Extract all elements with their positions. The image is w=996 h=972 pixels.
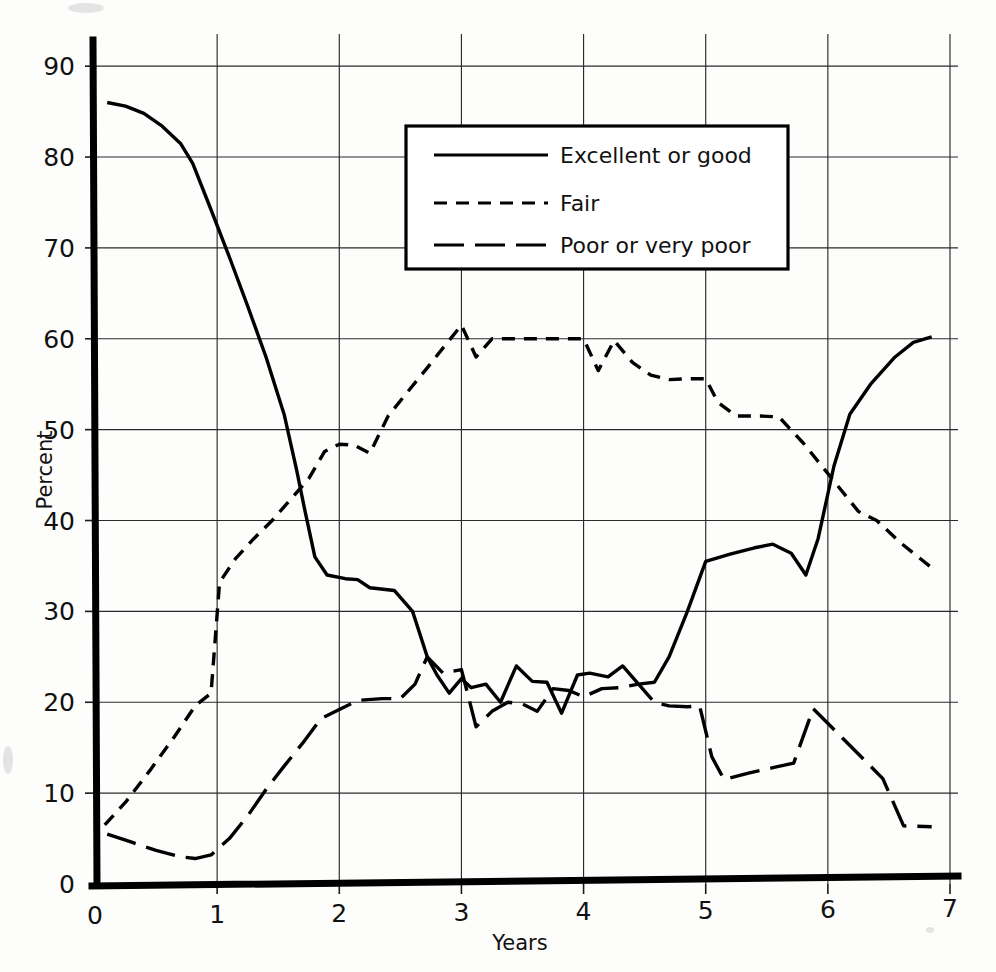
y-tick-label: 60 (43, 325, 75, 354)
x-tick-label: 0 (87, 901, 103, 930)
line-chart: 0102030405060708090 01234567 Percent Yea… (0, 0, 996, 972)
chart-figure: 0102030405060708090 01234567 Percent Yea… (0, 0, 996, 972)
x-tick-label: 3 (453, 898, 469, 927)
y-tick-label: 40 (43, 507, 75, 536)
y-tick-label: 20 (43, 688, 75, 717)
x-axis-tick-labels: 01234567 (87, 894, 958, 930)
series-line-poor-or-very-poor (107, 657, 931, 859)
legend-label: Fair (560, 191, 600, 216)
x-tick-label: 4 (576, 897, 592, 926)
x-axis-title: Years (491, 931, 547, 955)
y-axis-spine (93, 40, 97, 884)
y-axis-title: Percent (33, 430, 57, 509)
legend: Excellent or goodFairPoor or very poor (406, 126, 788, 269)
y-tick-label: 10 (43, 779, 75, 808)
x-tick-label: 6 (820, 895, 836, 924)
y-tick-label: 30 (43, 597, 75, 626)
legend-label: Excellent or good (560, 143, 752, 168)
x-tick-label: 7 (942, 894, 958, 923)
y-tick-label: 90 (43, 52, 75, 81)
x-tick-label: 5 (698, 896, 714, 925)
legend-label: Poor or very poor (560, 233, 751, 258)
y-tick-label: 70 (43, 234, 75, 263)
y-tick-label: 0 (59, 870, 75, 899)
x-tick-label: 1 (209, 900, 225, 929)
y-tick-label: 80 (43, 143, 75, 172)
x-tick-label: 2 (331, 899, 347, 928)
